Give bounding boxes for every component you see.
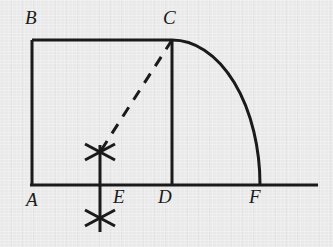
- vertex-label-d: D: [158, 187, 172, 206]
- vertex-label-c: C: [163, 8, 176, 27]
- drawing-group: [30, 40, 318, 232]
- figure-canvas: [0, 0, 333, 247]
- vertex-label-e: E: [113, 187, 125, 206]
- geometry-figure: B C A E D F: [0, 0, 333, 247]
- vertex-label-a: A: [26, 190, 38, 209]
- vertex-label-b: B: [25, 8, 37, 27]
- arc-CF: [172, 40, 260, 185]
- dashed-segment-CG: [100, 40, 172, 152]
- vertex-label-f: F: [249, 187, 261, 206]
